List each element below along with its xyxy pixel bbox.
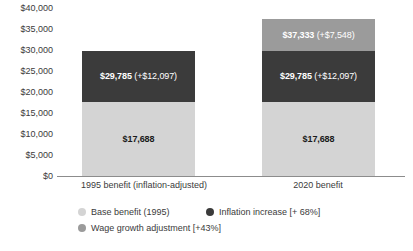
y-axis-tick-20000: $20,000 xyxy=(0,87,53,97)
bar-2020-benefit[interactable]: $17,688 $29,785 (+$12,097) $37,333 (+$7,… xyxy=(262,19,375,176)
x-axis-line xyxy=(57,176,405,177)
bar-1995-base-label: $17,688 xyxy=(123,134,155,144)
x-axis-label-2020: 2020 benefit xyxy=(231,180,405,190)
legend-item-wage-growth[interactable]: Wage growth adjustment [+43%] xyxy=(78,221,221,235)
bar-1995-inflation-label: $29,785 (+$12,097) xyxy=(100,71,177,81)
bar-1995-segment-inflation[interactable]: $29,785 (+$12,097) xyxy=(82,51,195,102)
y-axis-tick-40000: $40,000 xyxy=(0,3,53,13)
bar-2020-segment-base[interactable]: $17,688 xyxy=(262,102,375,176)
bar-1995-segment-base[interactable]: $17,688 xyxy=(82,102,195,176)
legend-item-inflation-increase[interactable]: Inflation increase [+ 68%] xyxy=(206,205,320,219)
bar-2020-inflation-label: $29,785 (+$12,097) xyxy=(280,71,357,81)
bar-2020-segment-inflation[interactable]: $29,785 (+$12,097) xyxy=(262,51,375,102)
stacked-bar-chart: $40,000 $35,000 $30,000 $25,000 $20,000 … xyxy=(0,0,413,251)
bar-2020-base-label: $17,688 xyxy=(303,134,335,144)
x-axis-label-1995: 1995 benefit (inflation-adjusted) xyxy=(57,180,231,190)
legend-swatch-inflation-increase-icon xyxy=(206,208,214,216)
y-axis-tick-0: $0 xyxy=(0,171,53,181)
bar-2020-segment-wage-growth[interactable]: $37,333 (+$7,548) xyxy=(262,19,375,51)
bar-1995-benefit[interactable]: $17,688 $29,785 (+$12,097) xyxy=(82,51,195,176)
y-axis-tick-30000: $30,000 xyxy=(0,45,53,55)
y-axis-tick-35000: $35,000 xyxy=(0,24,53,34)
bar-2020-wage-label: $37,333 (+$7,548) xyxy=(282,30,354,40)
y-axis: $40,000 $35,000 $30,000 $25,000 $20,000 … xyxy=(0,8,53,176)
y-axis-tick-15000: $15,000 xyxy=(0,108,53,118)
legend-swatch-base-benefit-icon xyxy=(78,208,86,216)
y-axis-tick-10000: $10,000 xyxy=(0,129,53,139)
legend-swatch-wage-growth-icon xyxy=(78,224,86,232)
legend-item-base-benefit[interactable]: Base benefit (1995) xyxy=(78,205,170,219)
y-axis-tick-5000: $5,000 xyxy=(0,150,53,160)
plot-area: $17,688 $29,785 (+$12,097) $17,688 $29,7… xyxy=(57,8,405,176)
y-axis-tick-25000: $25,000 xyxy=(0,66,53,76)
legend-label-wage-growth: Wage growth adjustment [+43%] xyxy=(91,223,221,233)
legend-label-inflation-increase: Inflation increase [+ 68%] xyxy=(219,207,320,217)
legend-label-base-benefit: Base benefit (1995) xyxy=(91,207,170,217)
